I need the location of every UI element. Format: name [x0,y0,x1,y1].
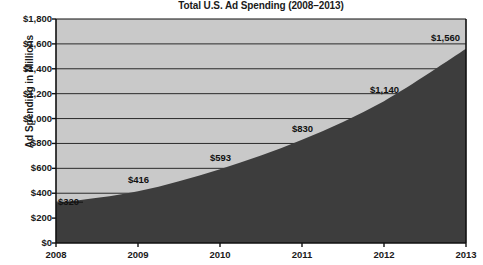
y-axis-tick-label: $600 [8,162,52,173]
y-axis-tick-label: $1,200 [8,88,52,99]
x-axis-tick-label: 2008 [33,249,79,260]
y-axis-tick-labels: $0$200$400$600$800$1,000$1,200$1,400$1,6… [4,0,52,265]
plot-area [0,0,483,265]
y-axis-tick-label: $200 [8,212,52,223]
y-axis-tick-label: $400 [8,187,52,198]
x-axis-tick-label: 2011 [279,249,325,260]
y-axis-tick-label: $0 [8,237,52,248]
x-axis-tick-label: 2013 [443,249,483,260]
y-axis-tick-label: $1,000 [8,113,52,124]
data-point-label: $1,140 [370,84,399,95]
x-axis-tick-label: 2009 [115,249,161,260]
x-axis-tick-label: 2010 [197,249,243,260]
chart-container: Total U.S. Ad Spending (2008–2013) Ad Sp… [0,0,483,265]
data-point-label: $416 [128,174,149,185]
y-axis-tick-label: $800 [8,137,52,148]
data-point-label: $830 [292,123,313,134]
y-axis-tick-label: $1,400 [8,63,52,74]
y-axis-tick-label: $1,800 [8,13,52,24]
y-axis-tick-label: $1,600 [8,38,52,49]
data-point-label: $1,560 [431,32,460,43]
x-axis-tick-label: 2012 [361,249,407,260]
data-point-label: $593 [210,152,231,163]
data-point-label: $320 [58,196,79,207]
